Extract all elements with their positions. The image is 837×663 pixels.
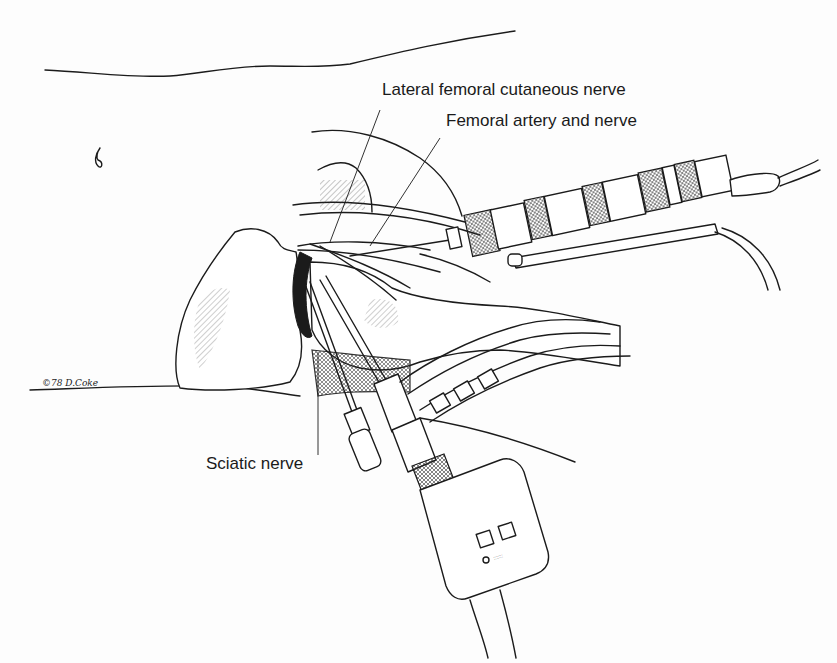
label-femoral-artery-and-nerve: Femoral artery and nerve [446,111,637,131]
artist-signature: ©78 D.Coke [42,378,98,388]
illustration-canvas: ::::::: Lateral femoral cutaneous nerve … [0,0,837,663]
label-lateral-femoral-cutaneous-nerve: Lateral femoral cutaneous nerve [382,80,626,100]
femur-neck [310,262,620,370]
body-outline-upper [45,31,515,76]
retractor-line [293,202,465,222]
pelvis-bone [176,229,302,390]
camera-head: ::::::: [412,454,549,658]
navel-mark-icon [96,148,102,167]
arthroscope-camera-instrument [350,155,820,290]
leader-lateral-femoral-cutaneous [330,110,380,242]
leader-femoral-artery [370,138,440,246]
label-sciatic-nerve: Sciatic nerve [206,454,303,474]
